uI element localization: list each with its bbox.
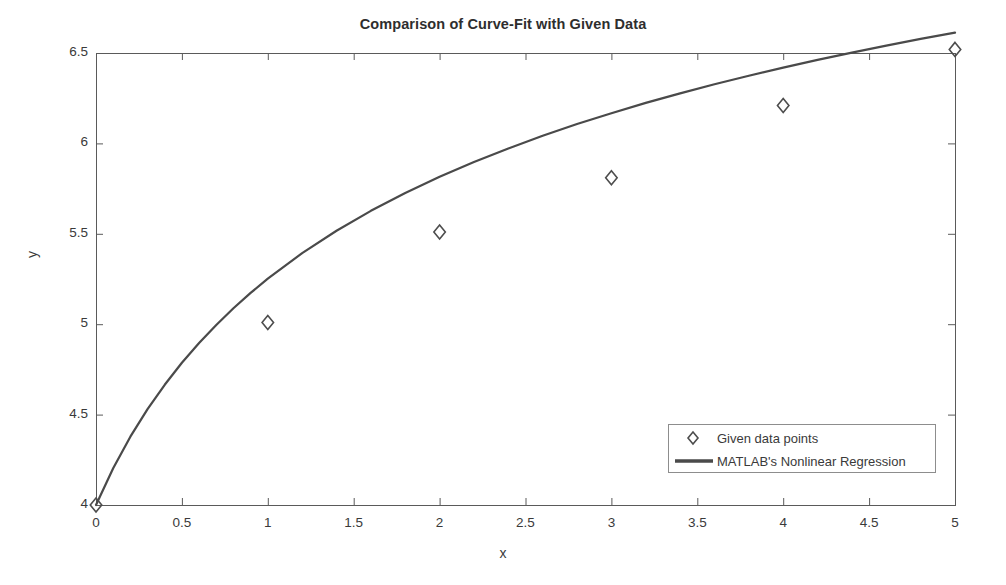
x-tick-label: 1.5 xyxy=(324,515,384,530)
x-tick-label: 3 xyxy=(581,515,641,530)
x-tick-label: 2.5 xyxy=(496,515,556,530)
y-tick-label: 5 xyxy=(44,315,88,330)
x-tick-label: 3.5 xyxy=(667,515,727,530)
legend-label-regression: MATLAB's Nonlinear Regression xyxy=(717,454,906,469)
legend-item-regression: MATLAB's Nonlinear Regression xyxy=(669,449,906,473)
y-axis-label: y xyxy=(24,251,40,258)
x-tick-label: 0 xyxy=(66,515,126,530)
x-tick-label: 4 xyxy=(753,515,813,530)
line-swatch-icon xyxy=(669,450,717,472)
x-tick-label: 0.5 xyxy=(152,515,212,530)
chart-plot-area xyxy=(0,0,1006,585)
y-tick-label: 4.5 xyxy=(44,406,88,421)
x-tick-label: 5 xyxy=(925,515,985,530)
y-tick-label: 4 xyxy=(44,496,88,511)
chart-legend: Given data points MATLAB's Nonlinear Reg… xyxy=(668,424,936,473)
y-tick-label: 6 xyxy=(44,134,88,149)
figure-canvas: Comparison of Curve-Fit with Given Data … xyxy=(0,0,1006,585)
y-tick-label: 6.5 xyxy=(44,44,88,59)
x-axis-label: x xyxy=(0,545,1006,561)
legend-label-data-points: Given data points xyxy=(717,431,818,446)
y-tick-label: 5.5 xyxy=(44,225,88,240)
diamond-marker-icon xyxy=(669,427,717,449)
x-tick-label: 4.5 xyxy=(839,515,899,530)
x-tick-label: 1 xyxy=(238,515,298,530)
legend-item-data-points: Given data points xyxy=(669,426,818,450)
x-tick-label: 2 xyxy=(410,515,470,530)
